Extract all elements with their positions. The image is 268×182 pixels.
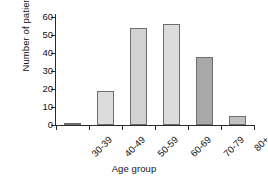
bar-60-69 bbox=[163, 24, 180, 125]
x-tick-mark bbox=[221, 125, 222, 130]
x-tick-mark bbox=[254, 125, 255, 130]
bar-80+ bbox=[229, 116, 246, 125]
x-tick-label: 50-59 bbox=[155, 134, 180, 159]
x-tick-label: 80+ bbox=[251, 134, 268, 153]
x-tick-label: 30-39 bbox=[89, 134, 114, 159]
x-tick-mark bbox=[89, 125, 90, 130]
bar-50-59 bbox=[130, 28, 147, 125]
bar-30-39 bbox=[64, 123, 81, 125]
y-tick-label: 20 bbox=[42, 83, 53, 94]
y-axis-title: Number of patients bbox=[20, 0, 31, 91]
y-tick-label: 30 bbox=[42, 65, 53, 76]
x-axis-title: Age group bbox=[0, 163, 268, 174]
x-tick-label: 70-79 bbox=[221, 134, 246, 159]
x-tick-label: 60-69 bbox=[188, 134, 213, 159]
x-tick-label: 40-49 bbox=[122, 134, 147, 159]
x-tick-mark bbox=[56, 125, 57, 130]
y-tick-label: 50 bbox=[42, 29, 53, 40]
y-tick-label: 0 bbox=[48, 119, 53, 130]
x-tick-mark bbox=[122, 125, 123, 130]
y-axis-line bbox=[55, 14, 56, 125]
bar-chart: Number of patients 0102030405060 30-3940… bbox=[0, 0, 268, 182]
plot-area: 0102030405060 30-3940-4950-5960-6970-798… bbox=[56, 17, 254, 125]
y-tick-label: 40 bbox=[42, 47, 53, 58]
y-tick-label: 10 bbox=[42, 101, 53, 112]
y-tick-label: 60 bbox=[42, 11, 53, 22]
x-tick-mark bbox=[155, 125, 156, 130]
x-tick-mark bbox=[188, 125, 189, 130]
bar-40-49 bbox=[97, 91, 114, 125]
bar-70-79 bbox=[196, 57, 213, 125]
